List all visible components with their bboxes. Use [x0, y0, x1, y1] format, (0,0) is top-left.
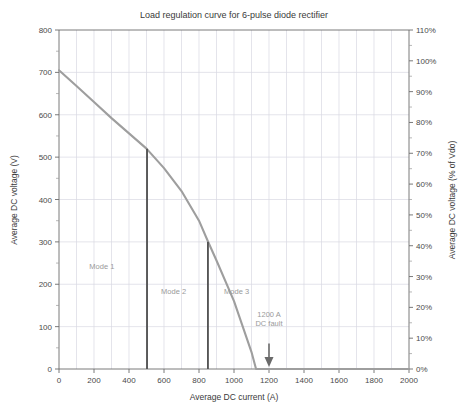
- x-tick-label: 1800: [365, 376, 383, 385]
- x-tick-label: 1400: [295, 376, 313, 385]
- load-regulation-chart: Load regulation curve for 6-pulse diode …: [0, 0, 469, 414]
- y-tick-label-right: 90%: [416, 88, 432, 97]
- grid-lines: [59, 30, 409, 369]
- chart-background: [0, 0, 469, 414]
- y-tick-label-right: 20%: [416, 303, 432, 312]
- y-tick-label-right: 50%: [416, 211, 432, 220]
- y-tick-label-left: 500: [39, 153, 53, 162]
- y-axis-title-right: Average DC voltage (% of Vdo): [447, 141, 457, 260]
- x-tick-label: 1200: [260, 376, 278, 385]
- x-tick-label: 0: [57, 376, 62, 385]
- y-tick-label-right: 0%: [416, 365, 428, 374]
- y-tick-label-right: 10%: [416, 334, 432, 343]
- y-tick-label-right: 100%: [416, 57, 436, 66]
- y-axis-title-left: Average DC voltage (V): [9, 155, 19, 245]
- x-tick-label: 800: [192, 376, 206, 385]
- y-tick-label-left: 0: [48, 365, 53, 374]
- y-tick-label-right: 70%: [416, 149, 432, 158]
- x-tick-label: 200: [87, 376, 101, 385]
- y-tick-label-left: 400: [39, 196, 53, 205]
- x-tick-label: 2000: [400, 376, 418, 385]
- chart-title: Load regulation curve for 6-pulse diode …: [140, 10, 328, 20]
- x-axis-title: Average DC current (A): [190, 392, 279, 402]
- x-tick-label: 400: [122, 376, 136, 385]
- x-tick-label: 1000: [225, 376, 243, 385]
- y-tick-label-left: 200: [39, 280, 53, 289]
- y-tick-label-left: 300: [39, 238, 53, 247]
- y-tick-label-left: 700: [39, 68, 53, 77]
- mode-3-label: Mode 3: [224, 287, 249, 296]
- y-tick-label-right: 80%: [416, 118, 432, 127]
- chart-container: Load regulation curve for 6-pulse diode …: [0, 0, 469, 414]
- y-tick-label-left: 100: [39, 323, 53, 332]
- y-tick-label-right: 30%: [416, 273, 432, 282]
- x-tick-label: 600: [157, 376, 171, 385]
- mode-1-label: Mode 1: [89, 262, 114, 271]
- y-tick-label-left: 600: [39, 111, 53, 120]
- x-tick-label: 1600: [330, 376, 348, 385]
- mode-2-label: Mode 2: [161, 287, 186, 296]
- y-tick-label-left: 800: [39, 26, 53, 35]
- y-tick-label-right: 40%: [416, 242, 432, 251]
- dc-fault-label-line2: DC fault: [255, 319, 283, 328]
- y-tick-label-right: 60%: [416, 180, 432, 189]
- y-tick-label-right: 110%: [416, 26, 436, 35]
